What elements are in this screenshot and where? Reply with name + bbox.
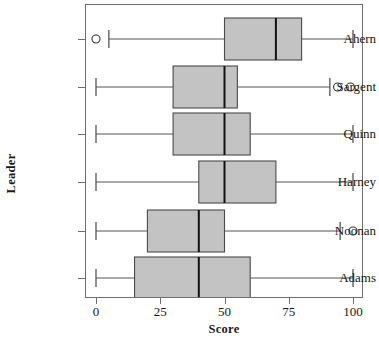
y-tick-label-quinn: Quinn bbox=[301, 126, 379, 142]
y-tick-mark bbox=[78, 87, 85, 88]
y-tick-mark bbox=[78, 39, 85, 40]
x-tick-label-100: 100 bbox=[333, 304, 373, 320]
y-tick-label-sargent: Sargent bbox=[301, 79, 379, 95]
y-axis-title: Leader bbox=[0, 0, 22, 347]
box-rect bbox=[135, 257, 251, 297]
box-rect bbox=[199, 161, 276, 203]
y-tick-label-noonan: Noonan bbox=[301, 223, 379, 239]
boxplot-canvas bbox=[86, 5, 362, 297]
box-rect bbox=[147, 210, 224, 252]
box-rect bbox=[173, 66, 237, 108]
box-rect bbox=[225, 18, 302, 60]
x-tick-label-75: 75 bbox=[269, 304, 309, 320]
y-tick-label-ahern: Ahern bbox=[301, 31, 379, 47]
y-tick-mark bbox=[78, 278, 85, 279]
x-axis-title: Score bbox=[85, 322, 363, 337]
y-tick-mark bbox=[78, 134, 85, 135]
y-tick-mark bbox=[78, 231, 85, 232]
y-tick-label-adams: Adams bbox=[301, 270, 379, 286]
y-tick-label-harney: Harney bbox=[301, 174, 379, 190]
x-tick-label-25: 25 bbox=[140, 304, 180, 320]
outlier-point bbox=[92, 35, 100, 43]
plot-area bbox=[85, 4, 363, 298]
x-tick-label-0: 0 bbox=[76, 304, 116, 320]
box-rect bbox=[173, 113, 250, 155]
boxplot-figure: Leader AhernSargentQuinnHarneyNoonanAdam… bbox=[0, 0, 379, 347]
x-tick-label-50: 50 bbox=[205, 304, 245, 320]
y-tick-mark bbox=[78, 182, 85, 183]
